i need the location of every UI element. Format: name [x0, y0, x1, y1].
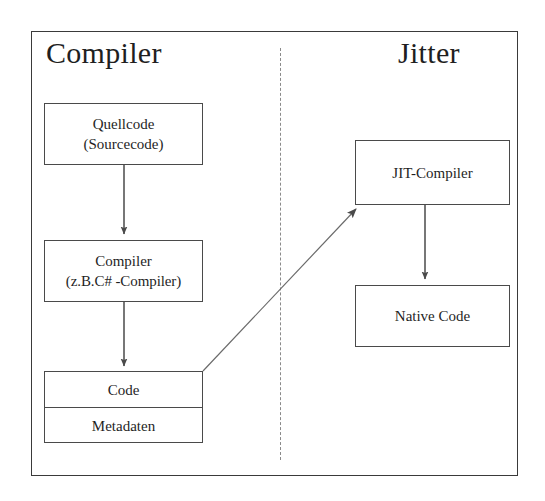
node-native-code-label: Native Code — [395, 306, 470, 326]
node-compiler-line1: Compiler — [95, 251, 152, 271]
node-quellcode-line1: Quellcode — [93, 114, 155, 134]
node-code-cell: Code — [45, 372, 202, 408]
node-jit-compiler: JIT-Compiler — [355, 140, 510, 205]
node-jit-compiler-label: JIT-Compiler — [392, 163, 472, 183]
node-compiler-line2: (z.B.C# -Compiler) — [66, 271, 181, 291]
diagram-canvas: Compiler Jitter Quellcode (Sourcecode) C… — [0, 0, 545, 501]
node-quellcode: Quellcode (Sourcecode) — [44, 103, 203, 165]
node-quellcode-line2: (Sourcecode) — [84, 134, 164, 154]
section-title-compiler: Compiler — [46, 36, 162, 70]
node-metadaten-cell: Metadaten — [45, 408, 202, 444]
node-native-code: Native Code — [355, 285, 510, 347]
section-divider-dashed — [280, 48, 281, 460]
node-code-metadata-stack: Code Metadaten — [44, 371, 203, 443]
section-title-jitter: Jitter — [398, 36, 460, 70]
node-compiler: Compiler (z.B.C# -Compiler) — [44, 240, 203, 302]
